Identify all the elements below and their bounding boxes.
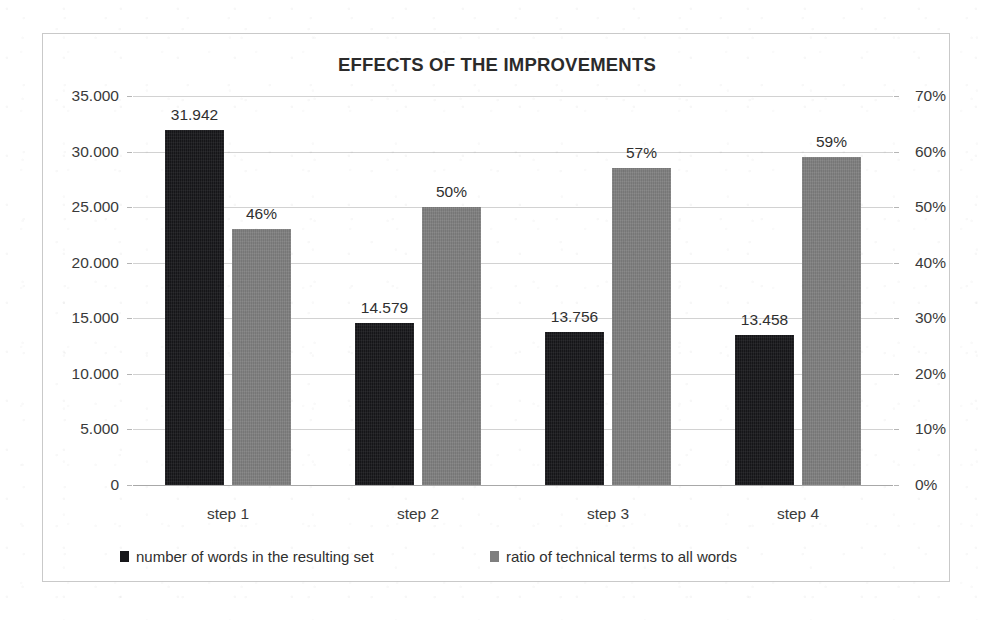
- legend-swatch-icon: [120, 551, 129, 562]
- bar-words: [735, 335, 794, 485]
- left-axis-tickmark: [127, 318, 132, 319]
- left-axis-tickmark: [127, 429, 132, 430]
- legend-item[interactable]: number of words in the resulting set: [120, 548, 374, 565]
- x-axis-tick-label: step 4: [703, 505, 893, 523]
- right-axis-tick-label: 70%: [915, 88, 946, 104]
- left-axis-tick-label: 5.000: [80, 422, 119, 438]
- right-axis-tick-label: 40%: [915, 255, 946, 271]
- left-axis-tick-label: 35.000: [72, 88, 119, 104]
- left-axis-tick-label: 10.000: [72, 366, 119, 382]
- bar-ratio: [232, 229, 291, 485]
- bar-value-label: 50%: [408, 184, 495, 200]
- right-axis-tick-label: 50%: [915, 199, 946, 215]
- x-axis-tick-label: step 2: [323, 505, 513, 523]
- bar-ratio: [422, 207, 481, 485]
- chart-container: EFFECTS OF THE IMPROVEMENTS 05.00010.000…: [42, 33, 950, 582]
- bar-words: [355, 323, 414, 485]
- left-axis-tick-label: 15.000: [72, 311, 119, 327]
- bar-value-label: 59%: [788, 134, 875, 150]
- bar-value-label: 31.942: [151, 107, 238, 123]
- right-axis-tickmark: [894, 207, 899, 208]
- gridline: [133, 96, 893, 97]
- right-axis-tickmark: [894, 263, 899, 264]
- chart-title: EFFECTS OF THE IMPROVEMENTS: [43, 54, 951, 76]
- bar-ratio: [612, 168, 671, 485]
- right-axis-tick-label: 10%: [915, 422, 946, 438]
- plot-area: 05.00010.00015.00020.00025.00030.00035.0…: [133, 96, 893, 485]
- bar-value-label: 13.458: [721, 312, 808, 328]
- left-axis-tickmark: [127, 263, 132, 264]
- legend-label: ratio of technical terms to all words: [506, 548, 737, 565]
- legend-swatch-icon: [490, 551, 499, 562]
- gridline: [133, 152, 893, 153]
- legend-label: number of words in the resulting set: [136, 548, 374, 565]
- bar-value-label: 13.756: [531, 309, 618, 325]
- left-axis-tick-label: 0: [110, 477, 119, 493]
- left-axis-tickmark: [127, 207, 132, 208]
- bar-value-label: 46%: [218, 206, 305, 222]
- left-axis-tickmark: [127, 485, 132, 486]
- right-axis-tick-label: 0%: [915, 477, 937, 493]
- right-axis-tickmark: [894, 152, 899, 153]
- left-axis-tick-label: 25.000: [72, 199, 119, 215]
- bar-words: [165, 130, 224, 485]
- bar-words: [545, 332, 604, 485]
- x-axis-tick-label: step 3: [513, 505, 703, 523]
- right-axis-tick-label: 30%: [915, 311, 946, 327]
- right-axis-tickmark: [894, 485, 899, 486]
- axis-baseline: [133, 485, 893, 486]
- left-axis-tickmark: [127, 96, 132, 97]
- left-axis-tick-label: 30.000: [72, 144, 119, 160]
- left-axis-tick-label: 20.000: [72, 255, 119, 271]
- right-axis-tick-label: 60%: [915, 144, 946, 160]
- right-axis-tickmark: [894, 429, 899, 430]
- right-axis-tickmark: [894, 96, 899, 97]
- right-axis-tick-label: 20%: [915, 366, 946, 382]
- left-axis-tickmark: [127, 374, 132, 375]
- left-axis-tickmark: [127, 152, 132, 153]
- bar-value-label: 14.579: [341, 300, 428, 316]
- bar-value-label: 57%: [598, 145, 685, 161]
- bar-ratio: [802, 157, 861, 485]
- right-axis-tickmark: [894, 374, 899, 375]
- x-axis-tick-label: step 1: [133, 505, 323, 523]
- chart-legend: number of words in the resulting setrati…: [43, 548, 951, 574]
- right-axis-tickmark: [894, 318, 899, 319]
- legend-item[interactable]: ratio of technical terms to all words: [490, 548, 737, 565]
